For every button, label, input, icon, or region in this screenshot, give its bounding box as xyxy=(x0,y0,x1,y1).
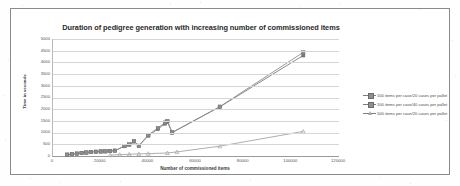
y-tick-label: 1500 xyxy=(24,119,50,123)
scan-artifact xyxy=(300,6,301,7)
scan-artifact xyxy=(120,181,121,182)
data-point-marker xyxy=(85,151,88,154)
data-point-marker xyxy=(80,151,83,154)
y-tick-label: 5000 xyxy=(24,37,50,41)
legend-item-label: 100 items per case/20 cases per pallet xyxy=(377,93,447,98)
gridline-horizontal xyxy=(53,144,339,145)
series-line xyxy=(67,55,303,154)
scan-artifact xyxy=(410,183,411,184)
plot-area xyxy=(52,39,339,157)
gridline-horizontal xyxy=(53,62,339,63)
series-line xyxy=(67,52,303,154)
scan-artifact xyxy=(22,5,23,6)
data-point-marker xyxy=(156,126,159,129)
x-tick-label: 40000 xyxy=(142,158,154,163)
data-point-marker xyxy=(94,150,97,153)
gridline-horizontal xyxy=(53,98,339,99)
chart-title: Duration of pedigree generation with inc… xyxy=(41,23,361,32)
x-axis-tick-labels: 020000400006000080000100000120000 xyxy=(52,158,352,166)
gridline-horizontal xyxy=(53,74,339,75)
data-point-marker xyxy=(75,152,78,155)
scan-artifact xyxy=(30,178,31,179)
y-tick-label: 0 xyxy=(24,154,50,158)
y-axis-tick-labels: 0500100015002000250030003500400045005000 xyxy=(22,39,50,156)
y-tick-label: 1000 xyxy=(24,130,50,134)
legend-item[interactable]: 100 items per case/20 cases per pallet xyxy=(363,91,459,100)
chart-series xyxy=(66,54,305,157)
data-point-marker xyxy=(70,153,73,156)
y-tick-label: 2000 xyxy=(24,107,50,111)
x-axis-title: Number of commissioned items xyxy=(52,166,338,171)
data-point-marker xyxy=(66,153,69,156)
y-tick-label: 3000 xyxy=(24,84,50,88)
data-point-marker xyxy=(147,133,150,136)
scan-artifact xyxy=(452,40,453,41)
data-point-marker xyxy=(113,149,116,152)
chart-frame: Duration of pedigree generation with inc… xyxy=(10,8,450,175)
scan-artifact xyxy=(340,3,341,4)
data-point-marker xyxy=(132,139,135,142)
chart-series xyxy=(108,130,305,157)
scan-artifact xyxy=(5,140,6,141)
scan-artifact xyxy=(380,177,381,178)
gridline-horizontal xyxy=(53,109,339,110)
y-tick-label: 3500 xyxy=(24,72,50,76)
legend-marker-icon xyxy=(363,93,376,99)
gridline-horizontal xyxy=(53,133,339,134)
gridline-horizontal xyxy=(53,86,339,87)
y-tick-label: 4500 xyxy=(24,49,50,53)
x-tick-label: 80000 xyxy=(237,158,249,163)
scan-artifact xyxy=(3,95,4,96)
legend-item[interactable]: 100 items per case/40 cases per pallet xyxy=(363,100,459,109)
x-tick-label: 120000 xyxy=(331,158,345,163)
chart-series xyxy=(66,51,305,157)
data-point-marker xyxy=(89,150,92,153)
scan-artifact xyxy=(60,182,61,183)
y-tick-label: 4000 xyxy=(24,60,50,64)
gridline-horizontal xyxy=(53,39,339,40)
legend-marker-icon xyxy=(363,111,376,117)
scan-artifact xyxy=(8,60,9,61)
scan-artifact xyxy=(250,179,251,180)
x-tick-label: 20000 xyxy=(94,158,106,163)
y-tick-label: 500 xyxy=(24,142,50,146)
data-point-marker xyxy=(104,150,107,153)
scan-artifact xyxy=(446,120,447,121)
scan-artifact xyxy=(455,75,456,76)
data-point-marker xyxy=(218,105,221,108)
scan-artifact xyxy=(420,9,421,10)
chart-legend: 100 items per case/20 cases per pallet10… xyxy=(363,91,459,121)
legend-item-label: 500 items per case/20 cases per pallet xyxy=(377,111,447,116)
data-point-marker xyxy=(99,150,102,153)
legend-item-label: 100 items per case/40 cases per pallet xyxy=(377,102,447,107)
gridline-horizontal xyxy=(53,121,339,122)
page-background: Duration of pedigree generation with inc… xyxy=(0,0,460,186)
series-line xyxy=(110,131,303,155)
gridline-horizontal xyxy=(53,51,339,52)
legend-item[interactable]: 500 items per case/20 cases per pallet xyxy=(363,109,459,118)
data-point-marker xyxy=(109,149,112,152)
scan-artifact xyxy=(170,4,171,5)
legend-marker-icon xyxy=(363,102,376,108)
y-tick-label: 2500 xyxy=(24,95,50,99)
x-tick-label: 100000 xyxy=(283,158,297,163)
scan-artifact xyxy=(200,2,201,3)
x-tick-label: 0 xyxy=(51,158,53,163)
x-tick-label: 60000 xyxy=(189,158,201,163)
